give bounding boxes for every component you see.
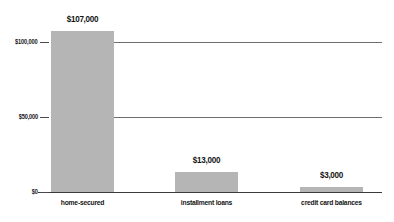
x-axis-category-label-credit-card-balances: credit card balances [291,199,373,207]
y-tick-mark-50000 [40,117,49,118]
bar-home-secured [51,31,114,192]
y-axis-tick-label-50000: $50,000 [19,114,38,121]
x-axis-line [38,192,382,193]
bar-credit-card-balances [300,187,363,192]
y-tick-mark-100000 [40,42,49,43]
bar-installment-loans [175,172,238,192]
y-tick-mark-0 [40,192,49,193]
x-axis-category-label-installment-loans: installment loans [166,199,248,207]
x-axis-category-label-home-secured: home-secured [42,199,124,207]
bar-chart: $100,000 $50,000 $0 $107,000 $13,000 $3,… [0,0,394,222]
bar-value-label-installment-loans: $13,000 [170,156,243,165]
y-axis-tick-label-100000: $100,000 [16,39,38,46]
bar-value-label-home-secured: $107,000 [46,15,119,24]
bar-value-label-credit-card-balances: $3,000 [295,171,368,180]
y-axis-tick-label-0: $0 [32,189,38,196]
